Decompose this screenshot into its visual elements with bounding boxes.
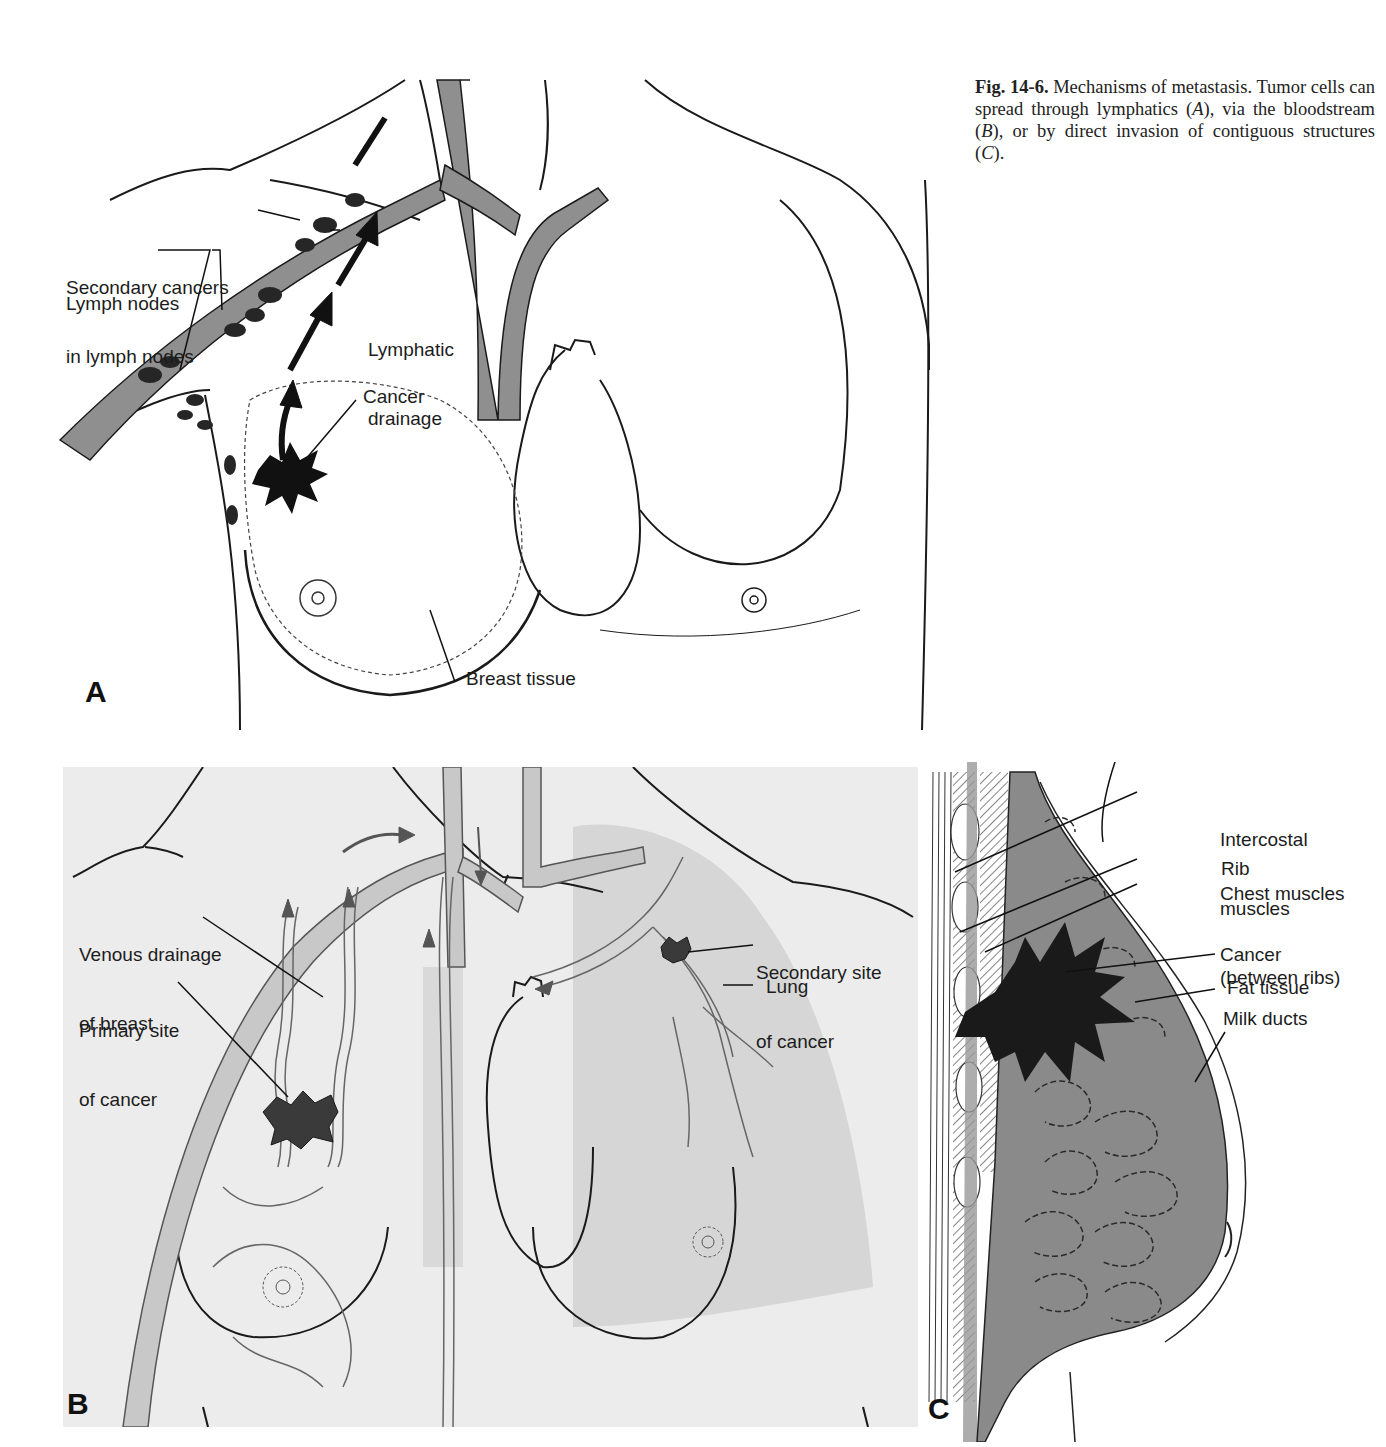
label-lymph-nodes: Lymph nodes [66, 292, 179, 315]
figure-number: Fig. 14-6. [975, 77, 1049, 97]
tumor-a [252, 442, 328, 514]
label-milk-ducts: Milk ducts [1223, 1007, 1307, 1030]
figure-caption: Fig. 14-6. Mechanisms of metastasis. Tum… [975, 76, 1375, 164]
label-secondary-site: Secondary site of cancer [756, 915, 882, 1099]
panel-c-direct-invasion: Intercostal muscles (between ribs) Rib C… [925, 762, 1386, 1442]
panel-b-bloodstream-spread: Venous drainage of breast Primary site o… [63, 767, 918, 1427]
panel-letter-a: A [85, 675, 107, 709]
label-secondary-cancers: Secondary cancers in lymph nodes [66, 230, 229, 414]
label-primary-site: Primary site of cancer [79, 973, 179, 1157]
label-lymphatic-drainage: Lymphatic drainage [368, 292, 454, 476]
label-fat-tissue: Fat tissue [1227, 976, 1309, 999]
panel-letter-b: B [67, 1387, 89, 1421]
primary-tumor [263, 1091, 338, 1149]
label-chest-muscles: Chest muscles [1220, 882, 1345, 905]
label-rib: Rib [1221, 857, 1250, 880]
label-breast-tissue: Breast tissue [466, 667, 576, 690]
panel-letter-c: C [928, 1392, 950, 1426]
label-lung: Lung [766, 975, 808, 998]
panel-a-lymphatic-spread: Secondary cancers in lymph nodes Lymph n… [0, 70, 930, 730]
label-cancer-a: Cancer [363, 385, 424, 408]
label-cancer-c: Cancer [1220, 943, 1281, 966]
